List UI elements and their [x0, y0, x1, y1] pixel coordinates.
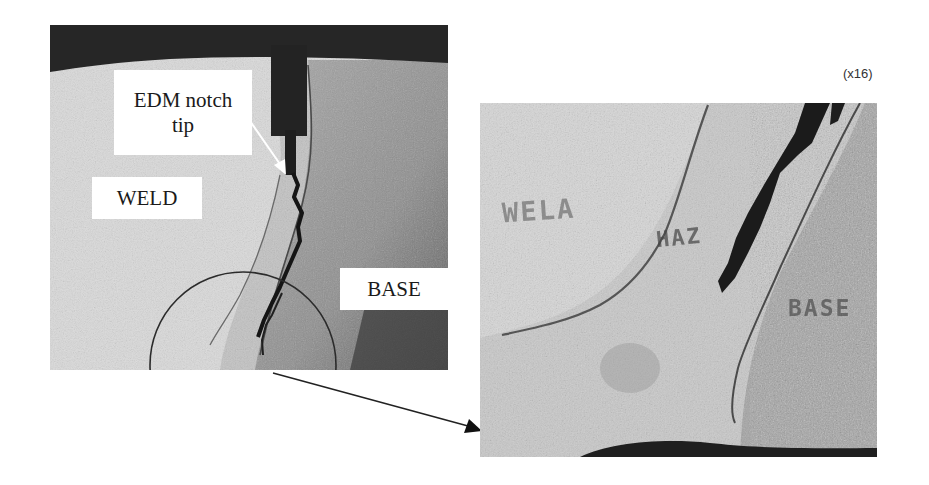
weld-label: WELD	[92, 177, 202, 219]
base-label: BASE	[340, 268, 448, 310]
arrow-shaft	[273, 373, 468, 426]
magnification-label: (x16)	[843, 66, 873, 81]
etched-haz-marking: HAZ	[655, 223, 703, 253]
macro-photo-panel: EDM notch tip WELD BASE	[50, 25, 448, 370]
etched-base-marking: BASE	[788, 295, 851, 321]
etched-weld-marking: WELA	[501, 192, 576, 228]
micrograph-panel: WELA HAZ BASE	[480, 103, 877, 457]
edm-notch-tip-label: EDM notch tip	[114, 70, 252, 155]
edm-label-line1: EDM notch	[134, 88, 233, 112]
edm-label-line2: tip	[172, 113, 194, 137]
micrograph-graphic	[480, 103, 877, 457]
